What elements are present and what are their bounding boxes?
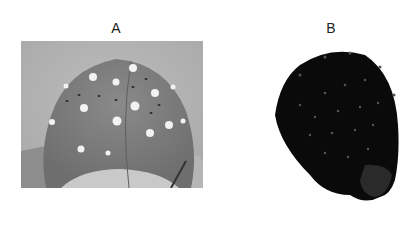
eeg-cap-photo-image xyxy=(21,41,203,188)
panel-b-head-scan xyxy=(270,45,402,203)
panel-a-label: A xyxy=(101,20,131,36)
panel-b-label: B xyxy=(316,20,346,36)
panel-a-eeg-cap-photo xyxy=(21,41,203,188)
head-scan-image xyxy=(270,45,402,203)
